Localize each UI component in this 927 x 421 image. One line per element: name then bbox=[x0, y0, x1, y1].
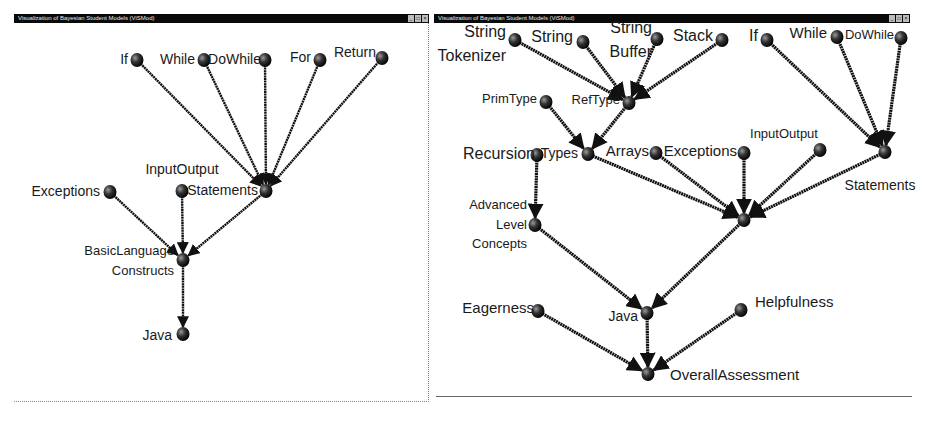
node-label-dowhile: DoWhile bbox=[208, 51, 261, 67]
node-label-stringtokenizer: StringTokenizer bbox=[438, 23, 507, 64]
node-exceptions[interactable] bbox=[104, 185, 117, 199]
node-label-dowhile: DoWhile bbox=[845, 27, 894, 42]
node-stringtokenizer[interactable] bbox=[509, 33, 522, 47]
node-java[interactable] bbox=[641, 306, 654, 320]
dependency-edge-for-statements bbox=[269, 65, 318, 185]
dependency-edge-return-statements bbox=[271, 62, 379, 186]
node-label-recursion: Recursion bbox=[463, 145, 535, 162]
node-label-eagerness: Eagerness bbox=[462, 299, 534, 316]
node-stringbuffer[interactable] bbox=[651, 32, 664, 46]
dependency-edge-advanced-java bbox=[539, 228, 642, 309]
node-if[interactable] bbox=[131, 53, 144, 67]
dependency-edge-types-hub bbox=[593, 156, 738, 217]
node-statements[interactable] bbox=[879, 145, 892, 159]
node-label-if: If bbox=[120, 51, 128, 67]
dependency-edge-arrays-hub bbox=[660, 156, 738, 216]
node-return[interactable] bbox=[376, 51, 389, 65]
node-label-overall: OverallAssessment bbox=[670, 366, 800, 383]
node-overall[interactable] bbox=[642, 367, 655, 381]
node-dowhile[interactable] bbox=[895, 31, 908, 45]
node-label-inputoutput: InputOutput bbox=[750, 126, 818, 141]
node-label-types: Types bbox=[541, 145, 578, 161]
node-label-basiclanguage: BasicLanguageConstructs bbox=[84, 243, 174, 278]
dependency-edge-dowhile-statements bbox=[265, 65, 266, 184]
node-label-inputoutput: InputOutput bbox=[145, 161, 218, 177]
node-string[interactable] bbox=[577, 35, 590, 49]
node-primtype[interactable] bbox=[540, 95, 553, 109]
node-hub[interactable] bbox=[738, 213, 751, 227]
node-label-while: While bbox=[160, 51, 195, 67]
node-basiclanguage[interactable] bbox=[177, 253, 190, 267]
node-if[interactable] bbox=[761, 33, 774, 47]
node-advanced[interactable] bbox=[529, 218, 542, 232]
dependency-edge-inputoutput-hub bbox=[749, 153, 816, 215]
dependency-edge-primtype-types bbox=[549, 106, 583, 149]
dependency-edge-helpfulness-overall bbox=[654, 313, 737, 370]
node-label-for: For bbox=[290, 49, 311, 65]
node-label-string: String bbox=[531, 28, 573, 45]
node-inputoutput[interactable] bbox=[814, 143, 827, 157]
node-label-statements: Statements bbox=[845, 177, 916, 193]
node-label-if: If bbox=[749, 27, 758, 44]
node-label-arrays: Arrays bbox=[606, 142, 649, 159]
node-label-java: Java bbox=[608, 308, 638, 324]
dependency-edge-statements-basiclanguage bbox=[188, 194, 262, 255]
node-exceptions[interactable] bbox=[738, 146, 751, 160]
node-while[interactable] bbox=[831, 30, 844, 44]
node-for[interactable] bbox=[314, 53, 327, 67]
node-label-statements: Statements bbox=[187, 182, 258, 198]
node-types[interactable] bbox=[582, 147, 595, 161]
node-label-while: While bbox=[789, 24, 827, 41]
node-stack[interactable] bbox=[716, 33, 729, 47]
dependency-edge-inputoutput-basiclanguage bbox=[182, 196, 183, 253]
node-label-reftype: RefType bbox=[572, 92, 620, 107]
node-label-helpfulness: Helpfulness bbox=[755, 293, 833, 310]
node-label-return: Return bbox=[334, 44, 376, 60]
node-label-stack: Stack bbox=[673, 27, 714, 44]
node-statements[interactable] bbox=[260, 184, 273, 198]
dependency-edge-java-overall bbox=[647, 318, 648, 367]
dependency-edge-dowhile-statements bbox=[886, 43, 900, 145]
node-reftype[interactable] bbox=[623, 96, 636, 110]
node-helpfulness[interactable] bbox=[735, 303, 748, 317]
node-label-exceptions: Exceptions bbox=[32, 183, 100, 199]
node-label-advanced: AdvancedLevelConcepts bbox=[469, 197, 527, 251]
node-label-stringbuffer: StringBuffer bbox=[610, 19, 653, 60]
node-label-exceptions: Exceptions bbox=[664, 142, 737, 159]
node-arrays[interactable] bbox=[650, 146, 663, 160]
node-java[interactable] bbox=[177, 327, 190, 341]
node-label-java: Java bbox=[142, 327, 172, 343]
dependency-edge-recursion-advanced bbox=[535, 160, 537, 218]
node-label-primtype: PrimType bbox=[482, 91, 537, 106]
bayesian-network-diagram: IfWhileDoWhileForReturnExceptionsInputOu… bbox=[0, 0, 927, 421]
dependency-edge-hub-java bbox=[652, 223, 740, 308]
